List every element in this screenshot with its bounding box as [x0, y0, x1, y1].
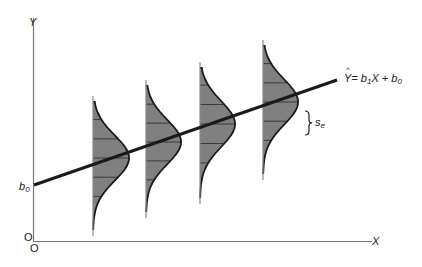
y-axis-label: Y [29, 17, 36, 28]
normal-curve-fill [146, 86, 181, 212]
regression-equation: ^Y= b1X + b0 [344, 73, 402, 86]
normal-curve-fill [200, 68, 235, 198]
intercept-label: b0 [19, 181, 30, 194]
hat-symbol: ^ [346, 66, 350, 74]
regression-line [34, 80, 337, 185]
origin-x-label: O [30, 243, 39, 254]
normal-curves [93, 40, 298, 236]
normal-curve-fill [93, 102, 129, 230]
regression-diagram [0, 0, 422, 267]
normal-curve-fill [263, 46, 298, 174]
spread-brace-icon [305, 111, 312, 135]
spread-label: se [315, 117, 325, 130]
x-axis-label: X [372, 236, 379, 247]
